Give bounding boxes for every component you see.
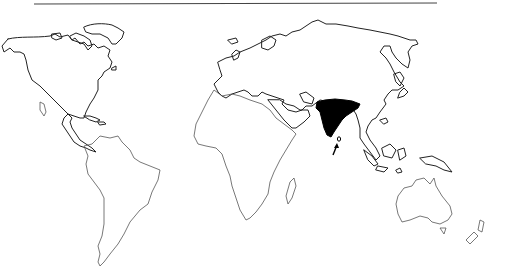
india-highlighted-region	[316, 99, 360, 137]
south-america	[84, 136, 160, 266]
world-map: India	[0, 0, 505, 276]
eurasia	[214, 20, 418, 160]
australia	[396, 178, 484, 244]
north-america	[2, 24, 124, 152]
sri-lanka-island	[337, 137, 340, 141]
arrow-icon	[333, 143, 339, 155]
arabian-peninsula	[268, 100, 310, 128]
top-rule-line	[34, 3, 437, 4]
africa	[194, 90, 296, 220]
